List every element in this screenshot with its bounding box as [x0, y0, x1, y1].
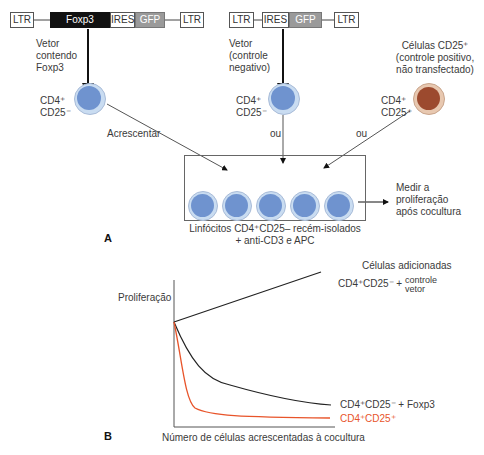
measure-caption: Medir a proliferação após cocultura [396, 182, 461, 218]
control-stack: controle vetor [405, 276, 437, 294]
ltr-right-segment: LTR [334, 12, 359, 28]
control-prefix: CD4⁺CD25⁻ + [338, 278, 402, 289]
caption-line: + anti-CD3 e APC [160, 235, 390, 247]
caption-line: Vetor [36, 38, 77, 50]
caption-line: contendo [36, 50, 77, 62]
caption-line: proliferação [396, 194, 461, 206]
control-vector-label: CD4⁺CD25⁻ + controle vetor [338, 276, 437, 294]
or-label-2: ou [356, 128, 367, 140]
caption-line: Vetor [229, 38, 270, 50]
caption-line: Foxp3 [36, 62, 77, 74]
cell-2-label: CD4⁺ CD25⁻ [236, 95, 267, 119]
culture-well [184, 155, 366, 221]
vector-control-caption: Vetor (controle negativo) [229, 38, 270, 74]
cell-marker-cd4: CD4⁺ [236, 95, 267, 107]
panel-b-label: B [104, 430, 112, 442]
added-cells-title: Células adicionadas [362, 260, 452, 272]
well-caption: Linfócitos CD4⁺CD25– recém-isolados + an… [160, 223, 390, 247]
panel-a-label: A [104, 232, 112, 244]
foxp3-segment: Foxp3 [50, 12, 110, 28]
caption-line: negativo) [229, 62, 270, 74]
control-bottom: vetor [405, 285, 437, 294]
caption-line: após cocultura [396, 206, 461, 218]
cell-marker-cd25: CD25⁻ [40, 107, 71, 119]
cell-1-label: CD4⁺ CD25⁻ [40, 95, 71, 119]
cell-3-label: CD4⁺ CD25⁺ [381, 95, 412, 119]
caption-line: Células CD25⁺ [390, 40, 480, 52]
caption-line: Linfócitos CD4⁺CD25– recém-isolados [160, 223, 390, 235]
cell-cd25neg-icon [74, 83, 106, 115]
caption-line: Medir a [396, 182, 461, 194]
well-cell-icon [222, 191, 252, 221]
ltr-left-segment: LTR [229, 12, 254, 28]
gfp-segment: GFP [289, 12, 322, 28]
cell-cd25neg-icon [268, 83, 300, 115]
gfp-segment: GFP [135, 12, 165, 28]
cell-marker-cd25: CD25⁻ [236, 107, 267, 119]
ltr-left-segment: LTR [10, 12, 34, 28]
caption-line: não transfectado) [390, 64, 480, 76]
well-cell-icon [188, 191, 218, 221]
ires-segment: IRES [262, 12, 289, 28]
add-label: Acrescentar [107, 128, 160, 140]
cd25pos-series-label: CD4⁺CD25⁺ [340, 413, 396, 425]
vector-foxp3-caption: Vetor contendo Foxp3 [36, 38, 77, 74]
y-axis-label: Proliferação [118, 292, 171, 304]
cell-marker-cd4: CD4⁺ [40, 95, 71, 107]
well-cell-icon [324, 191, 354, 221]
ltr-right-segment: LTR [180, 12, 204, 28]
cell-marker-cd25: CD25⁺ [381, 107, 412, 119]
cell-marker-cd4: CD4⁺ [381, 95, 412, 107]
positive-control-caption: Células CD25⁺ (controle positivo, não tr… [390, 40, 480, 76]
well-cell-icon [256, 191, 286, 221]
caption-line: (controle positivo, [390, 52, 480, 64]
x-axis-label: Número de células acrescentadas à cocult… [162, 432, 365, 444]
or-label-1: ou [270, 128, 281, 140]
caption-line: (controle [229, 50, 270, 62]
well-cell-icon [290, 191, 320, 221]
cell-cd25pos-icon [413, 83, 445, 115]
ires-segment: IRES [110, 12, 135, 28]
foxp3-series-label: CD4⁺CD25⁻ + Foxp3 [340, 399, 435, 411]
